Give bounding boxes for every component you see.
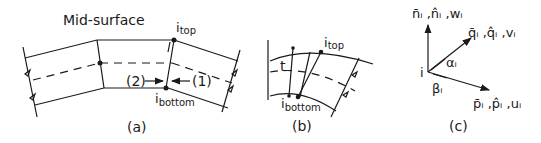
panel-b: t itop ibottom (b): [268, 35, 373, 134]
caption-a: (a): [127, 119, 147, 135]
mid-surface-label: Mid-surface: [63, 12, 145, 28]
panel-a: Mid-surface itop ibottom (2) (1) (a): [23, 12, 240, 135]
bottom-node: [164, 86, 169, 91]
shell-element-diagram: Mid-surface itop ibottom (2) (1) (a) t i…: [0, 0, 541, 143]
alpha-label: αᵢ: [446, 55, 457, 70]
break-line-b-right: [331, 58, 359, 117]
bottom-node-label-b: ibottom: [281, 96, 321, 113]
marker-1-label: (1): [192, 73, 212, 89]
alpha-vector: [431, 59, 445, 70]
bottom-edge-left: [35, 88, 104, 105]
bottom-node-label: ibottom: [155, 91, 195, 108]
caption-b: (b): [292, 118, 312, 134]
thickness-top-dot: [291, 46, 295, 50]
top-edge-left: [25, 40, 97, 58]
top-node-b: [319, 50, 324, 55]
thickness-label: t: [280, 58, 286, 74]
top-node-label-b: itop: [324, 35, 344, 51]
beta-label: βᵢ: [432, 81, 443, 96]
thickness-bottom-dot: [287, 94, 291, 98]
top-node-label: itop: [176, 20, 196, 36]
caption-c: (c): [449, 118, 468, 134]
node-director-thick: [168, 42, 170, 52]
q-axis-label: q̄ᵢ ,q̂ᵢ ,vᵢ: [468, 25, 516, 40]
beta-vector: [433, 74, 447, 78]
break-symbol-right: [228, 70, 237, 92]
p-axis-label: p̄ᵢ ,p̂ᵢ ,uᵢ: [473, 96, 521, 111]
panel-c: n̄ᵢ ,n̂ᵢ ,wᵢ q̄ᵢ ,q̂ᵢ ,vᵢ p̄ᵢ ,p̂ᵢ ,uᵢ i…: [412, 6, 521, 134]
bottom-node-b: [296, 95, 301, 100]
mid-surface-left: [33, 63, 100, 80]
normal-axis-label: n̄ᵢ ,n̂ᵢ ,wᵢ: [412, 6, 463, 21]
marker-2-label: (2): [126, 73, 146, 89]
top-edge-right: [174, 40, 238, 61]
node-label-c: i: [420, 65, 424, 80]
